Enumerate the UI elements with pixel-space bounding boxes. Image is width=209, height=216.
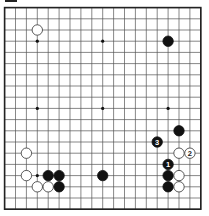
white-stone (174, 148, 184, 158)
black-stone (163, 182, 173, 192)
black-stone (163, 170, 173, 180)
move-number-label: 1 (166, 160, 170, 169)
star-point (36, 174, 39, 177)
white-stone (32, 25, 42, 35)
white-stone (21, 170, 31, 180)
black-stone (98, 170, 108, 180)
black-stone (54, 182, 64, 192)
star-point (36, 107, 39, 110)
white-stone (32, 182, 42, 192)
move-number-label: 2 (188, 149, 192, 158)
black-stone (54, 170, 64, 180)
white-stone (174, 182, 184, 192)
black-stone (43, 170, 53, 180)
white-stone (43, 182, 53, 192)
move-number-label: 3 (155, 138, 159, 147)
white-stone (174, 170, 184, 180)
white-stone (21, 148, 31, 158)
star-point (36, 40, 39, 43)
go-board: 321 (0, 0, 209, 216)
star-point (101, 107, 104, 110)
black-stone (174, 126, 184, 136)
star-point (101, 40, 104, 43)
black-stone (163, 36, 173, 46)
star-point (167, 107, 170, 110)
